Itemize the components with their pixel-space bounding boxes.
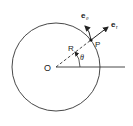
label-angle: θ: [80, 53, 84, 62]
label-point: P: [95, 40, 100, 49]
label-origin: O: [44, 63, 51, 73]
label-e-theta-sub: θ: [86, 16, 89, 21]
e-theta-arrow: [85, 26, 91, 40]
label-e-r-sub: r: [116, 24, 118, 30]
label-radius: R: [68, 44, 74, 53]
polar-diagram: O R P θ e θ e r: [0, 0, 133, 126]
e-r-arrow: [91, 27, 108, 40]
